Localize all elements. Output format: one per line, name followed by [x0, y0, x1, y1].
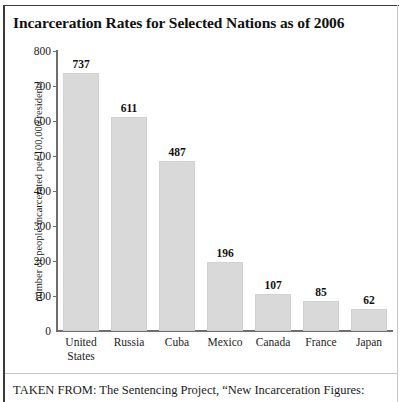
- bar-slot: 737UnitedStates: [63, 51, 99, 331]
- bar-value-label: 196: [207, 247, 243, 259]
- x-tick-label: Japan: [341, 336, 397, 350]
- bar[interactable]: [159, 161, 195, 331]
- bar[interactable]: [207, 262, 243, 331]
- bar-group: 737UnitedStates611Russia487Cuba196Mexico…: [57, 51, 393, 331]
- bar[interactable]: [63, 73, 99, 331]
- y-tick-label: 700: [34, 80, 51, 92]
- bar-value-label: 62: [351, 294, 387, 306]
- y-tick-label: 200: [34, 255, 51, 267]
- x-tick-label-line: Japan: [341, 336, 397, 350]
- plot-area: 0100200300400500600700800 737UnitedState…: [57, 51, 393, 331]
- x-tick-label-line: States: [53, 350, 109, 364]
- bar-slot: 85France: [303, 51, 339, 331]
- y-tick-label: 100: [34, 290, 51, 302]
- y-tick-label: 600: [34, 115, 51, 127]
- y-tick-label: 800: [34, 45, 51, 57]
- bar-slot: 611Russia: [111, 51, 147, 331]
- bar-slot: 487Cuba: [159, 51, 195, 331]
- bar-value-label: 737: [63, 58, 99, 70]
- y-tick-label: 500: [34, 150, 51, 162]
- bar[interactable]: [111, 117, 147, 331]
- bar-slot: 107Canada: [255, 51, 291, 331]
- bar[interactable]: [351, 309, 387, 331]
- bar-value-label: 611: [111, 102, 147, 114]
- y-tick-label: 300: [34, 220, 51, 232]
- chart-figure: Incarceration Rates for Selected Nations…: [0, 0, 404, 402]
- bar-slot: 196Mexico: [207, 51, 243, 331]
- bar-value-label: 107: [255, 279, 291, 291]
- bar-value-label: 85: [303, 286, 339, 298]
- caption-divider: [5, 373, 397, 374]
- bar-slot: 62Japan: [351, 51, 387, 331]
- bar-value-label: 487: [159, 146, 195, 158]
- source-caption: TAKEN FROM: The Sentencing Project, “New…: [13, 382, 397, 398]
- bar[interactable]: [303, 301, 339, 331]
- bar[interactable]: [255, 294, 291, 331]
- y-tick-label: 400: [34, 185, 51, 197]
- plot-wrapper: number of people incarcerated per 100,00…: [0, 0, 404, 402]
- y-tick-label: 0: [45, 325, 51, 337]
